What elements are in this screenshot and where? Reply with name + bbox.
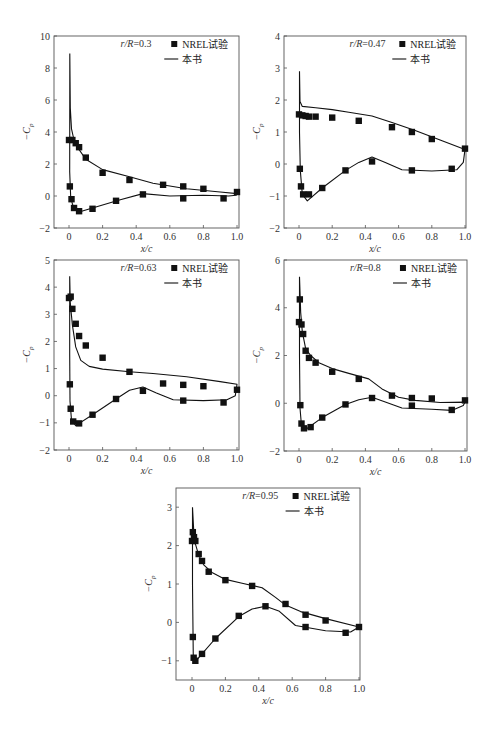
legend-marker-icon (293, 493, 299, 499)
experiment-marker (301, 425, 307, 431)
x-axis-title: x/c (369, 466, 382, 477)
y-tick-label: 1 (167, 579, 172, 590)
radius-ratio-annotation: r/R=0.8 (350, 262, 381, 273)
cp-distribution-figure: 00.20.40.60.81.0−20246810x/c−Cpr/R=0.3NR… (0, 0, 496, 730)
x-tick-label: 0.8 (197, 453, 210, 464)
experiment-marker (113, 198, 119, 204)
experiment-marker (68, 196, 74, 202)
legend-label-experiment: NREL试验 (411, 262, 457, 274)
experiment-marker (302, 624, 308, 630)
y-tick-label: 1 (45, 363, 50, 374)
x-axis-title: x/c (261, 695, 274, 706)
experiment-marker (312, 359, 318, 365)
experiment-marker (76, 420, 82, 426)
x-tick-label: 1.0 (459, 454, 472, 465)
experiment-marker (160, 380, 166, 386)
experiment-marker (306, 113, 312, 119)
experiment-marker (140, 191, 146, 197)
y-tick-label: 0 (275, 159, 280, 170)
radius-ratio-annotation: r/R=0.95 (242, 490, 278, 501)
x-tick-label: 0.2 (96, 231, 109, 242)
experiment-marker (307, 424, 313, 430)
experiment-marker (429, 136, 435, 142)
chart-panel-2: 00.20.40.60.81.0−2−101234x/c−Cpr/R=0.47N… (251, 31, 471, 255)
experiment-marker (429, 395, 435, 401)
experiment-marker (234, 387, 240, 393)
legend-label-experiment: NREL试验 (410, 38, 456, 50)
legend-marker-icon (171, 41, 177, 47)
experiment-marker (67, 183, 73, 189)
legend-label-simulation: 本书 (182, 53, 202, 65)
experiment-marker (297, 166, 303, 172)
x-tick-label: 0.4 (130, 231, 143, 242)
y-tick-label: 2 (45, 159, 50, 170)
experiment-marker (192, 658, 198, 664)
experiment-marker (180, 397, 186, 403)
y-axis-title: −Cp (251, 347, 265, 364)
experiment-marker (300, 331, 306, 337)
experiment-marker (180, 382, 186, 388)
y-tick-label: −1 (161, 655, 172, 666)
experiment-marker (298, 183, 304, 189)
experiment-marker (220, 195, 226, 201)
x-tick-label: 0.6 (392, 454, 405, 465)
legend-marker-icon (171, 265, 177, 271)
y-axis-title: −Cp (143, 575, 157, 592)
y-tick-label: 0 (167, 617, 172, 628)
experiment-marker (76, 144, 82, 150)
x-tick-label: 0 (190, 683, 195, 694)
experiment-marker (329, 369, 335, 375)
y-tick-label: 6 (45, 95, 50, 106)
y-tick-label: −2 (269, 446, 280, 457)
experiment-marker (312, 113, 318, 119)
y-axis-title: −Cp (251, 123, 265, 140)
experiment-marker (462, 397, 468, 403)
radius-ratio-annotation: r/R=0.63 (121, 262, 157, 273)
experiment-marker (298, 321, 304, 327)
experiment-marker (409, 395, 415, 401)
x-tick-label: 0.8 (426, 231, 439, 242)
experiment-marker (409, 402, 415, 408)
y-axis-title: −Cp (21, 346, 35, 363)
experiment-marker (356, 118, 362, 124)
experiment-marker (180, 183, 186, 189)
x-tick-label: 0.2 (326, 454, 339, 465)
x-tick-label: 1.0 (459, 231, 472, 242)
y-tick-label: 2 (45, 336, 50, 347)
experiment-marker (302, 612, 308, 618)
experiment-marker (126, 177, 132, 183)
simulation-curve (300, 71, 466, 201)
experiment-marker (297, 296, 303, 302)
experiment-marker (306, 191, 312, 197)
experiment-marker (206, 569, 212, 575)
x-tick-label: 0.4 (359, 454, 372, 465)
experiment-marker (89, 412, 95, 418)
legend-label-experiment: NREL试验 (182, 38, 228, 50)
experiment-marker (73, 321, 79, 327)
x-tick-label: 0.6 (164, 231, 177, 242)
legend-marker-icon (399, 41, 405, 47)
y-tick-label: 4 (45, 127, 50, 138)
legend-label-simulation: 本书 (411, 277, 431, 289)
experiment-marker (236, 613, 242, 619)
y-tick-label: 3 (275, 63, 280, 74)
experiment-marker (76, 333, 82, 339)
experiment-marker (342, 630, 348, 636)
y-tick-label: 4 (45, 282, 50, 293)
x-tick-label: 0.2 (326, 231, 339, 242)
y-tick-label: 3 (167, 502, 172, 513)
experiment-marker (300, 191, 306, 197)
y-tick-label: 10 (40, 31, 50, 42)
experiment-marker (222, 577, 228, 583)
radius-ratio-annotation: r/R=0.3 (121, 38, 152, 49)
experiment-marker (302, 348, 308, 354)
experiment-marker (199, 558, 205, 564)
x-tick-label: 0.8 (197, 231, 210, 242)
plot-frame (284, 36, 466, 228)
experiment-marker (319, 414, 325, 420)
experiment-marker (449, 407, 455, 413)
x-tick-label: 1.0 (231, 453, 244, 464)
experiment-marker (69, 306, 75, 312)
x-tick-label: 0.4 (253, 683, 266, 694)
experiment-marker (83, 154, 89, 160)
